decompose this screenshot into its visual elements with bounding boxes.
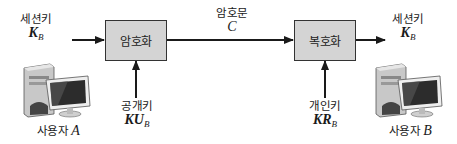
desktop-computer-icon <box>372 62 444 118</box>
ciphertext-label: 암호문 C <box>208 6 256 34</box>
receiver-session-key-label: 세션키 KB <box>386 12 430 44</box>
encrypt-box-label: 암호화 <box>120 32 152 49</box>
encrypt-box: 암호화 <box>105 20 167 61</box>
desktop-computer-icon <box>20 62 92 118</box>
decrypt-box: 복호화 <box>294 20 356 61</box>
public-key-label: 공개키 KUB <box>112 99 162 131</box>
private-key-label: 개인키 KRB <box>300 99 350 131</box>
user-a-label: 사용자 A <box>28 122 88 139</box>
decrypt-box-label: 복호화 <box>309 32 341 49</box>
user-b-label: 사용자 B <box>380 122 440 139</box>
sender-session-key-label: 세션키 KB <box>14 12 58 44</box>
